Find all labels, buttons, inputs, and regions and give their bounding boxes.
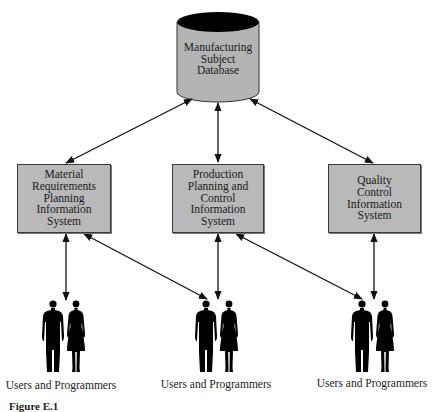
database-label: Manufacturing Subject Database bbox=[177, 42, 259, 77]
arrow-mrp-users2 bbox=[84, 234, 207, 299]
system-label-qc: Quality Control Information System bbox=[347, 175, 402, 222]
woman-icon bbox=[376, 301, 394, 372]
woman-icon bbox=[220, 301, 238, 372]
system-box-ppc: Production Planning and Control Informat… bbox=[172, 164, 264, 233]
woman-icon bbox=[67, 301, 85, 372]
system-label-ppc: Production Planning and Control Informat… bbox=[188, 169, 248, 228]
users-group-2 bbox=[195, 300, 238, 372]
man-icon bbox=[195, 300, 217, 372]
system-label-mrp: Material Requirements Planning Informati… bbox=[32, 169, 96, 228]
users-group-1 bbox=[42, 300, 85, 372]
users-label-1: Users and Programmers bbox=[0, 379, 126, 391]
man-icon bbox=[42, 300, 64, 372]
system-box-mrp: Material Requirements Planning Informati… bbox=[17, 164, 111, 233]
arrow-db-mrp bbox=[66, 99, 192, 163]
figure-caption: Figure E.1 bbox=[9, 400, 58, 412]
system-box-qc: Quality Control Information System bbox=[328, 164, 421, 233]
users-label-3: Users and Programmers bbox=[307, 377, 437, 389]
arrow-ppc-users3 bbox=[236, 234, 362, 299]
arrow-db-qc bbox=[250, 99, 373, 163]
man-icon bbox=[351, 300, 373, 372]
users-label-2: Users and Programmers bbox=[151, 378, 281, 390]
users-group-3 bbox=[351, 300, 394, 372]
